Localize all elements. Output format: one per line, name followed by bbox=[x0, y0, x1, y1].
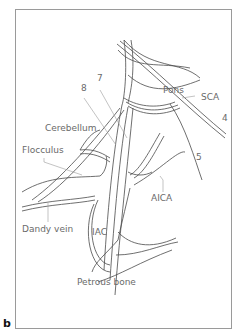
label-pons: Pons bbox=[163, 86, 184, 95]
label-nerve-7: 7 bbox=[97, 74, 103, 83]
label-petrous-bone: Petrous bone bbox=[77, 278, 136, 287]
label-flocculus: Flocculus bbox=[22, 146, 64, 155]
label-aica: AICA bbox=[151, 194, 172, 203]
label-nerve-5: 5 bbox=[196, 153, 202, 162]
panel-label: b bbox=[3, 317, 11, 330]
label-iac: IAC bbox=[92, 228, 107, 237]
label-cerebellum: Cerebellum bbox=[45, 124, 97, 133]
label-sca: SCA bbox=[201, 93, 219, 102]
label-nerve-4: 4 bbox=[222, 114, 228, 123]
label-nerve-8: 8 bbox=[81, 84, 87, 93]
label-dandy-vein: Dandy vein bbox=[22, 225, 73, 234]
